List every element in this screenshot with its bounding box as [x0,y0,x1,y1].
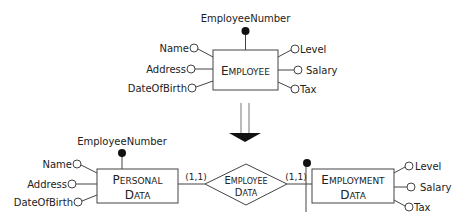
attribute-circle-icon [294,66,302,74]
svg-text:DATA: DATA [340,188,367,202]
er-diagram: EMPLOYEE EmployeeNumber Name Address Dat… [0,0,457,222]
attribute-name: Name [159,43,189,54]
employee-entity: EMPLOYEE [213,50,278,90]
identifier-label: EmployeeNumber [201,13,292,24]
attribute-circle-icon [405,203,413,211]
attribute-circle-icon [190,44,198,52]
attribute-circle-icon [68,180,76,188]
attribute-tax: Tax [299,84,317,95]
svg-text:DATA: DATA [125,188,152,202]
svg-text:DATA: DATA [235,187,258,198]
svg-text:EMPLOYEE: EMPLOYEE [224,175,267,186]
attribute-circle-icon [74,198,82,206]
attribute-tax: Tax [413,202,431,213]
external-identifier [303,159,311,212]
personal-attributes: Name Address DateOfBirth [14,159,97,208]
employee-identifier: EmployeeNumber [201,13,292,50]
attribute-dateofbirth: DateOfBirth [128,83,187,94]
employee-left-attributes: Name Address DateOfBirth [128,43,213,94]
personal-identifier: EmployeeNumber [77,136,168,169]
employee-label: EMPLOYEE [221,64,270,78]
personal-data-entity: PERSONAL DATA [97,169,178,203]
identifier-label: EmployeeNumber [77,136,168,147]
attribute-salary: Salary [306,65,337,76]
attribute-circle-icon [187,65,195,73]
attribute-address: Address [27,179,67,190]
cardinality-right: (1,1) [285,172,306,182]
attribute-dateofbirth: DateOfBirth [14,197,73,208]
attribute-circle-icon [291,85,299,93]
key-dot-icon [303,159,311,167]
svg-text:EMPLOYMENT: EMPLOYMENT [321,173,385,187]
employee-right-attributes: Level Salary Tax [278,44,337,95]
employment-data-entity: EMPLOYMENT DATA [312,169,394,203]
attribute-circle-icon [188,84,196,92]
attribute-circle-icon [73,160,81,168]
employment-attributes: Level Salary Tax [394,161,451,213]
attribute-circle-icon [407,183,415,191]
attribute-circle-icon [405,162,413,170]
key-dot-icon [242,27,250,35]
attribute-salary: Salary [420,182,451,193]
attribute-address: Address [146,64,186,75]
attribute-level: Level [300,44,326,55]
down-arrow-icon [229,103,261,142]
svg-text:PERSONAL: PERSONAL [113,173,163,187]
employee-data-relationship: EMPLOYEE DATA (1,1) (1,1) [178,164,312,205]
cardinality-left: (1,1) [185,172,206,182]
attribute-name: Name [42,159,72,170]
attribute-circle-icon [291,45,299,53]
key-dot-icon [118,149,126,157]
attribute-level: Level [415,161,441,172]
